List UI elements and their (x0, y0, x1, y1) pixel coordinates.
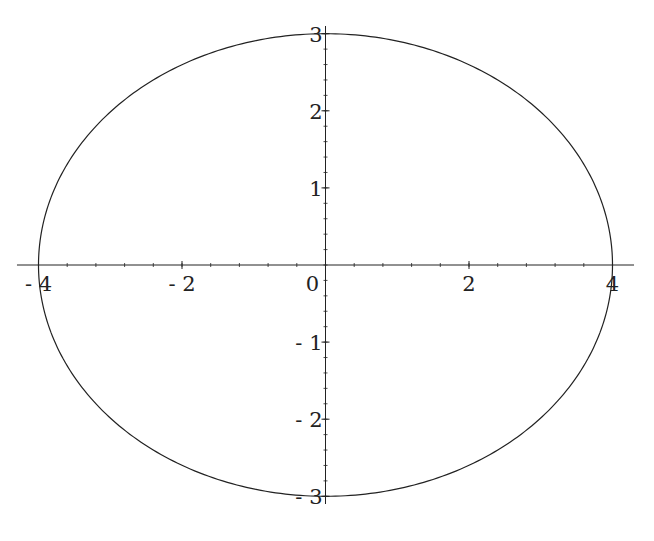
y-tick-label: - 2 (295, 408, 322, 432)
y-tick-label: - 1 (295, 331, 322, 355)
y-tick-label: 1 (309, 177, 322, 201)
y-tick-label: 3 (309, 23, 322, 47)
ellipse-plot: - 4- 2024- 3- 2- 1123 (0, 0, 654, 541)
x-tick-label: 0 (306, 272, 319, 296)
x-tick-label: - 2 (168, 272, 195, 296)
tick-labels: - 4- 2024- 3- 2- 1123 (25, 23, 619, 510)
x-tick-label: 2 (462, 272, 475, 296)
y-tick-label: 2 (309, 100, 322, 124)
y-tick-label: - 3 (295, 485, 322, 509)
